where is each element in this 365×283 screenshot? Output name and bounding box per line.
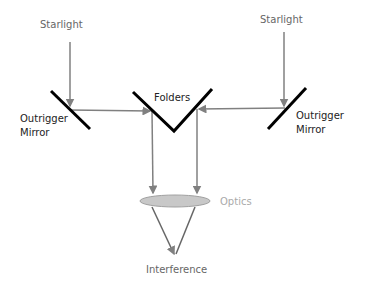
outrigger-mirror-right-label-1: Outrigger (296, 110, 344, 121)
beam-left-to-optics (152, 111, 153, 193)
optics-lens (140, 195, 210, 207)
optics-label: Optics (220, 196, 252, 207)
optical-interferometer-diagram (0, 0, 365, 283)
outrigger-mirror-left-label-2: Mirror (20, 127, 49, 138)
folders-label: Folders (154, 92, 190, 103)
beam-converge-left (152, 207, 174, 254)
starlight-label-right: Starlight (260, 14, 303, 25)
outrigger-mirror-left-label-1: Outrigger (20, 113, 68, 124)
starlight-label-left: Starlight (40, 19, 83, 30)
beam-right-to-folder (199, 108, 285, 109)
outrigger-mirror-right-label-2: Mirror (296, 124, 325, 135)
beam-converge-right (176, 207, 195, 254)
beam-left-to-folder (70, 110, 150, 111)
interference-label: Interference (146, 264, 207, 275)
